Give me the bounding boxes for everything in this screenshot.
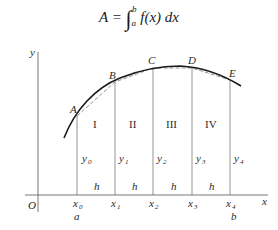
region-label-4: IV [205,118,217,130]
trapezoid-chords [77,68,230,116]
abscissa-label-4: x4 [225,197,236,211]
origin-label: O [28,199,36,211]
ordinate-label-2: y2 [156,152,167,166]
ordinate-label-4: y4 [233,152,244,166]
ordinate-label-3: y3 [195,152,206,166]
lower-bound-label: a [74,210,80,222]
y-axis-label: y [29,46,35,58]
region-label-3: III [166,118,177,130]
ordinate-label-0: y0 [81,152,92,166]
abscissa-label-3: x3 [187,197,198,211]
trapezoid-diagram: y x O A B C D E I II III IV y0 y1 y2 y3 … [0,0,278,230]
point-label-c: C [148,54,156,66]
abscissa-label-0: x0 [72,197,83,211]
upper-bound-label: b [231,210,237,222]
region-label-2: II [129,118,137,130]
ordinate-label-1: y1 [118,152,128,166]
width-label-4: h [209,180,215,192]
region-label-1: I [93,118,97,130]
width-label-2: h [132,180,138,192]
point-label-d: D [187,54,196,66]
point-label-e: E [228,67,236,79]
point-label-a: A [69,103,77,115]
width-label-3: h [171,180,177,192]
abscissa-label-1: x1 [110,197,120,211]
point-label-b: B [109,69,116,81]
abscissa-label-2: x2 [148,197,159,211]
width-label-1: h [94,180,100,192]
x-axis-label: x [261,195,267,207]
